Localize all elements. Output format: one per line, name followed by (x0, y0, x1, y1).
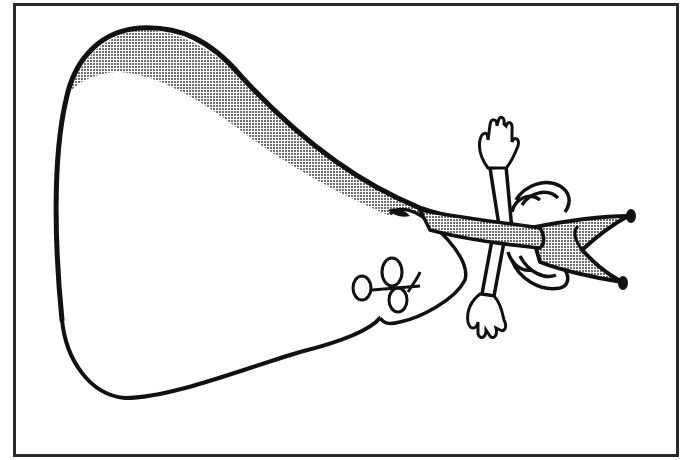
body-cape-lower (62, 318, 380, 398)
hat-bell-top (626, 209, 636, 223)
jester-hat (530, 216, 628, 282)
jester-illustration (0, 0, 682, 460)
hat-bell-bottom (618, 276, 628, 290)
hand-raised (479, 117, 518, 168)
hand-lowered (468, 294, 506, 338)
arm-lowered (482, 240, 504, 296)
